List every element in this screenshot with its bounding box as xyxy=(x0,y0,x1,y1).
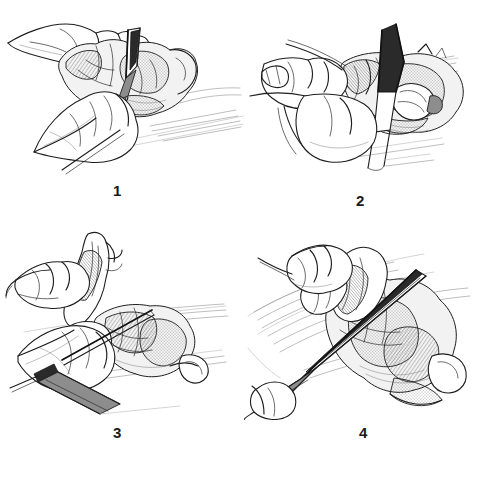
illustration-panel-3 xyxy=(0,228,244,418)
upper-hand xyxy=(258,245,352,293)
panel-3-artwork xyxy=(0,228,244,418)
panel-1-artwork xyxy=(0,0,244,180)
illustration-panel-4 xyxy=(244,238,488,420)
panel-2-caption: 2 xyxy=(356,193,364,208)
panel-3-caption: 3 xyxy=(113,425,121,440)
illustration-panel-1 xyxy=(0,0,244,180)
panel-4-caption: 4 xyxy=(359,425,367,440)
panel-4-artwork xyxy=(244,238,488,420)
panel-2-artwork xyxy=(244,0,488,190)
illustration-panel-2 xyxy=(244,0,488,190)
lower-hand xyxy=(244,382,296,420)
figure-sheet: 1 xyxy=(0,0,488,478)
upper-hand xyxy=(6,261,89,308)
right-hand-forearm xyxy=(34,92,138,163)
panel-1-caption: 1 xyxy=(113,183,121,198)
